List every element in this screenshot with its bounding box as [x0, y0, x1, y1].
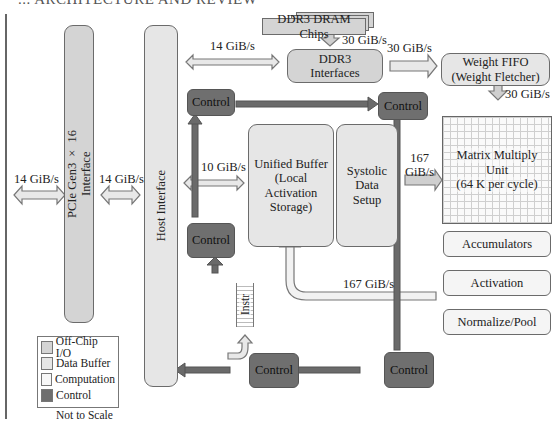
systolic-label: Systolic [347, 164, 387, 178]
activation: Activation [443, 270, 551, 296]
systolic-sub2: Setup [353, 193, 381, 207]
swatch [41, 373, 52, 386]
ddr3-label: DDR3 [319, 52, 352, 66]
swatch [41, 389, 53, 402]
ddr3-interfaces: DDR3 Interfaces [287, 49, 383, 83]
host-interface-label: Host Interface [154, 170, 168, 241]
unified-buffer: Unified Buffer (Local Activation Storage… [248, 124, 334, 247]
control-block-instr: Control [187, 223, 235, 258]
systolic-sub1: Data [355, 178, 379, 192]
control-block-bottom-mid: Control [249, 353, 299, 388]
accumulators: Accumulators [443, 231, 551, 257]
weight-fifo-label: Weight FIFO [462, 55, 528, 69]
pcie-label: PCIe Gen3 × 16Interface [65, 130, 94, 218]
swatch [41, 341, 53, 354]
mmu-sub1: Unit [486, 163, 508, 177]
swatch [41, 357, 53, 370]
legend-item-databuf: Data Buffer [41, 355, 115, 371]
instruction-queue: Instr [236, 283, 254, 327]
bw-fifo-mmu: 30 GiB/s [505, 87, 550, 102]
host-interface: Host Interface [144, 25, 178, 387]
normalize-pool: Normalize/Pool [443, 309, 551, 335]
bw-host-ddr: 14 GiB/s [210, 39, 255, 54]
systolic-data-setup: Systolic Data Setup [336, 124, 398, 247]
bw-systolic-mmu: 167GiB/s [405, 152, 434, 180]
control-block-host-top: Control [187, 89, 235, 116]
unified-buffer-sub2: Storage) [270, 200, 312, 214]
mmu-sub2: (64 K per cycle) [456, 177, 538, 191]
bw-pcie-host: 14 GiB/s [99, 172, 144, 187]
bw-chips-ddr: 30 GiB/s [342, 33, 387, 48]
legend-item-control: Control [41, 387, 115, 403]
weight-fifo: Weight FIFO (Weight Fletcher) [441, 53, 550, 86]
control-block-bottom-right: Control [384, 352, 434, 388]
legend-item-offchip: Off-Chip I/O [41, 339, 115, 355]
bw-ddr-fifo: 30 GiB/s [387, 41, 432, 56]
matrix-multiply-unit: Matrix Multiply Unit (64 K per cycle) [442, 116, 552, 224]
legend-item-compute: Computation [41, 371, 115, 387]
legend: Off-Chip I/O Data Buffer Computation Con… [37, 336, 119, 408]
unified-buffer-sub1: (Local Activation [249, 171, 333, 200]
weight-fletcher-label: (Weight Fletcher) [451, 70, 539, 84]
bw-host-ub: 10 GiB/s [201, 160, 246, 175]
mmu-label: Matrix Multiply [457, 148, 538, 162]
interfaces-label: Interfaces [310, 66, 359, 80]
pcie-interface: PCIe Gen3 × 16Interface [64, 25, 94, 323]
scale-note: Not to Scale [56, 409, 113, 421]
unified-buffer-label: Unified Buffer [254, 157, 328, 171]
control-block-top-right: Control [378, 92, 428, 120]
bw-ext-pcie: 14 GiB/s [14, 172, 59, 187]
bw-pool-ub: 167 GiB/s [343, 277, 394, 292]
